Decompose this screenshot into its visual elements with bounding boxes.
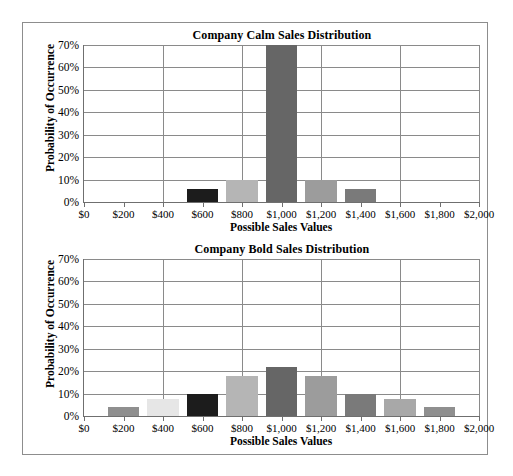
bar [305, 180, 337, 202]
x-tick-label: $600 [192, 208, 214, 220]
x-tick [124, 416, 125, 421]
chart-title: Company Bold Sales Distribution [83, 242, 481, 257]
y-tick-label: 40% [39, 320, 79, 332]
bar [226, 376, 258, 416]
x-tick-label: $600 [192, 422, 214, 434]
y-tick-label: 50% [39, 84, 79, 96]
bar [147, 399, 179, 416]
y-tick-label: 30% [39, 129, 79, 141]
x-tick [479, 416, 480, 421]
bar [266, 45, 298, 202]
x-tick-label: $800 [231, 208, 253, 220]
x-tick [282, 202, 283, 207]
x-tick [163, 416, 164, 421]
x-tick [321, 202, 322, 207]
x-tick-label: $1,800 [424, 422, 454, 434]
plot-area: 0%10%20%30%40%50%60%70%$0$200$400$600$80… [83, 45, 479, 203]
y-gridline [84, 259, 479, 260]
x-tick [282, 416, 283, 421]
y-tick-label: 20% [39, 365, 79, 377]
bar [226, 180, 258, 202]
y-tick-label: 60% [39, 275, 79, 287]
y-gridline [84, 281, 479, 282]
bar [187, 394, 219, 416]
x-gridline [400, 45, 401, 202]
figure-frame: Company Calm Sales Distribution Probabil… [22, 22, 488, 455]
y-tick-label: 0% [39, 196, 79, 208]
x-tick [84, 416, 85, 421]
y-tick-label: 40% [39, 106, 79, 118]
x-tick [84, 202, 85, 207]
x-tick [440, 202, 441, 207]
bar [187, 189, 219, 202]
x-tick-label: $0 [79, 208, 90, 220]
x-tick-label: $400 [152, 422, 174, 434]
y-tick-label: 10% [39, 388, 79, 400]
x-tick [440, 416, 441, 421]
bar [345, 189, 377, 202]
chart-title: Company Calm Sales Distribution [83, 28, 481, 43]
bar [108, 407, 140, 416]
x-tick-label: $0 [79, 422, 90, 434]
x-tick-label: $400 [152, 208, 174, 220]
x-tick-label: $2,000 [464, 422, 494, 434]
y-tick-label: 20% [39, 151, 79, 163]
y-gridline [84, 304, 479, 305]
x-tick-label: $1,400 [345, 208, 375, 220]
plot-area: 0%10%20%30%40%50%60%70%$0$200$400$600$80… [83, 259, 479, 417]
y-tick-label: 70% [39, 39, 79, 51]
x-tick-label: $1,800 [424, 208, 454, 220]
y-gridline [84, 349, 479, 350]
x-gridline [479, 259, 480, 416]
y-tick-label: 70% [39, 253, 79, 265]
x-tick [203, 202, 204, 207]
bar [345, 394, 377, 416]
x-tick-label: $1,600 [385, 422, 415, 434]
x-tick-label: $1,600 [385, 208, 415, 220]
x-axis-label: Possible Sales Values [83, 221, 479, 233]
x-tick-label: $1,400 [345, 422, 375, 434]
x-tick-label: $1,200 [306, 422, 336, 434]
x-tick-label: $1,000 [266, 422, 296, 434]
x-tick [163, 202, 164, 207]
x-tick [242, 202, 243, 207]
x-tick [124, 202, 125, 207]
x-tick-label: $800 [231, 422, 253, 434]
x-tick-label: $200 [113, 208, 135, 220]
x-gridline [242, 45, 243, 202]
y-tick-label: 10% [39, 174, 79, 186]
x-tick [400, 202, 401, 207]
x-tick [361, 202, 362, 207]
y-tick-label: 0% [39, 410, 79, 422]
y-tick-label: 30% [39, 343, 79, 355]
x-axis-label: Possible Sales Values [83, 435, 479, 447]
bar [305, 376, 337, 416]
x-gridline [163, 259, 164, 416]
x-gridline [479, 45, 480, 202]
x-gridline [321, 45, 322, 202]
y-tick-label: 60% [39, 61, 79, 73]
x-tick-label: $1,200 [306, 208, 336, 220]
x-gridline [400, 259, 401, 416]
y-tick-label: 50% [39, 298, 79, 310]
x-tick-label: $200 [113, 422, 135, 434]
x-tick [321, 416, 322, 421]
bar [266, 367, 298, 416]
x-tick [479, 202, 480, 207]
x-tick [400, 416, 401, 421]
chart-panel-company-bold: Company Bold Sales Distribution Probabil… [23, 239, 489, 454]
x-tick-label: $2,000 [464, 208, 494, 220]
x-tick [361, 416, 362, 421]
x-gridline [163, 45, 164, 202]
bar [424, 407, 456, 416]
chart-panel-company-calm: Company Calm Sales Distribution Probabil… [23, 25, 489, 237]
y-gridline [84, 326, 479, 327]
x-tick-label: $1,000 [266, 208, 296, 220]
x-tick [242, 416, 243, 421]
x-tick [203, 416, 204, 421]
bar [384, 399, 416, 416]
